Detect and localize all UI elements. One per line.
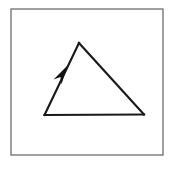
triangle-bottom-edge (45, 115, 145, 116)
triangle-diagram-svg: Triangle with directed side (0, 0, 174, 170)
figure-canvas: Triangle with directed side (0, 0, 174, 170)
border-frame (11, 9, 163, 155)
